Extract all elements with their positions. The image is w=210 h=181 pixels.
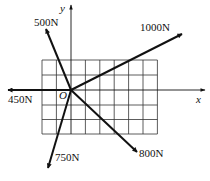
force-500n-arrow (46, 29, 71, 90)
axes (71, 5, 205, 134)
force-1000n-label: 1000N (140, 21, 170, 33)
force-diagram: x y O 1000N 500N 450N 750N 800N (0, 0, 210, 181)
force-500n-label: 500N (34, 16, 59, 28)
force-800n-label: 800N (139, 147, 164, 159)
x-axis-label: x (195, 93, 201, 105)
force-750n-label: 750N (55, 151, 80, 163)
y-axis-label: y (59, 2, 65, 14)
force-800n-arrow (71, 90, 137, 152)
force-1000n-arrow (71, 34, 182, 90)
force-450n-label: 450N (8, 93, 33, 105)
